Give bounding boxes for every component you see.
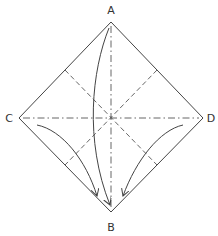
origami-diagram <box>0 0 218 236</box>
label-c: C <box>5 113 13 124</box>
arrow-c-to-b <box>37 125 97 196</box>
label-a: A <box>107 5 115 16</box>
arrow-d-to-b <box>123 125 183 196</box>
label-d: D <box>207 113 215 124</box>
arrow-a-to-b <box>93 28 110 205</box>
label-b: B <box>107 222 115 233</box>
